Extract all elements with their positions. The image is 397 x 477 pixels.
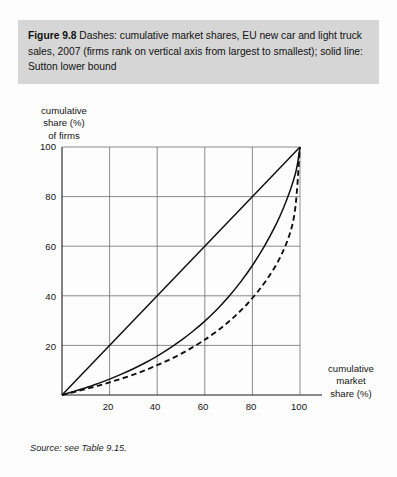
- figure-caption-band: Figure 9.8 Dashes: cumulative market sha…: [18, 20, 379, 84]
- chart-series-layer: [62, 147, 300, 395]
- chart-plot-svg: [0, 86, 397, 441]
- figure-number-label: Figure 9.8: [28, 30, 76, 41]
- figure-page: Figure 9.8 Dashes: cumulative market sha…: [0, 0, 397, 477]
- chart-figure: cumulative share (%) of firms cumulative…: [0, 86, 397, 441]
- figure-caption-text: Figure 9.8 Dashes: cumulative market sha…: [28, 28, 369, 75]
- chart-axes-frame: [62, 147, 322, 395]
- series-line-diagonal: [62, 147, 300, 395]
- source-note: Source: see Table 9.15.: [30, 443, 127, 453]
- figure-caption-body: Dashes: cumulative market shares, EU new…: [28, 30, 363, 72]
